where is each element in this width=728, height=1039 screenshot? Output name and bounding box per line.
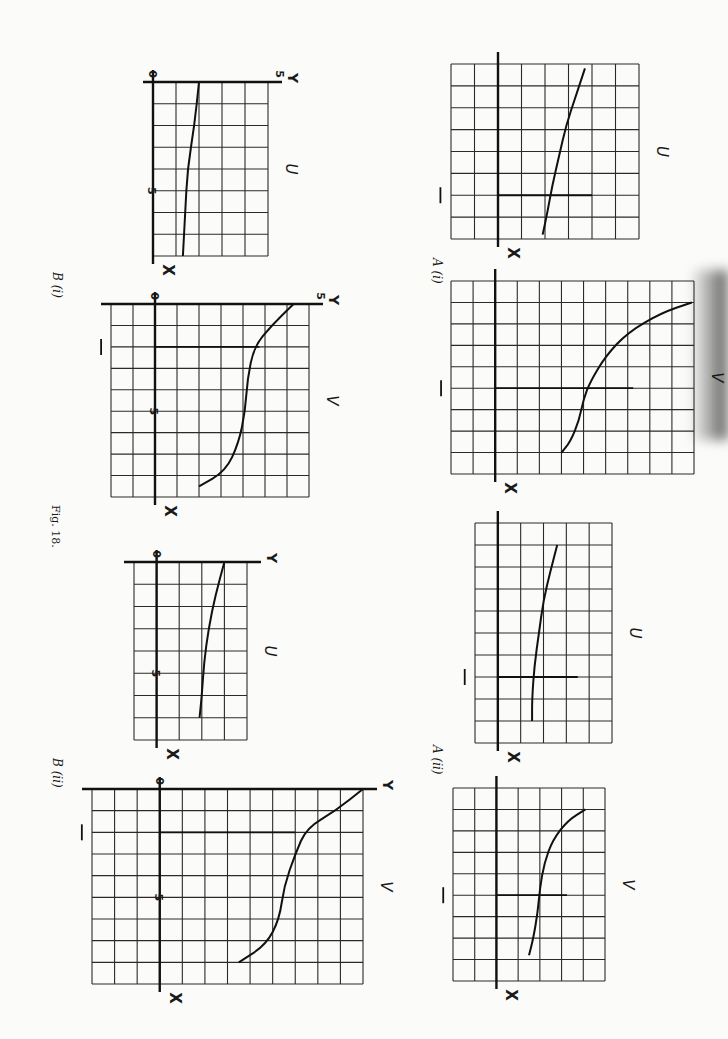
svg-text:X: X	[501, 482, 519, 494]
svg-text:X: X	[504, 247, 522, 259]
plot-a-ii-u: XU	[465, 511, 644, 763]
svg-text:U: U	[626, 628, 644, 639]
svg-text:V: V	[323, 395, 341, 407]
svg-text:U: U	[282, 164, 300, 175]
svg-text:V: V	[619, 879, 637, 891]
svg-text:0: 0	[148, 292, 161, 300]
figure-18-plots: XUXVXUXVXY055UXY055VXY05UXY05V	[0, 0, 728, 1039]
svg-text:X: X	[163, 748, 181, 760]
svg-text:5: 5	[152, 894, 165, 902]
svg-text:Y: Y	[264, 552, 280, 564]
plot-b-ii-v: XY05V	[82, 777, 396, 1004]
svg-text:5: 5	[145, 187, 158, 195]
svg-text:0: 0	[146, 70, 159, 78]
plot-a-i-v: XV	[441, 269, 726, 494]
svg-text:V: V	[708, 372, 726, 384]
plot-a-ii-v: XV	[443, 776, 637, 1001]
panel-label-b-ii: B (ii)	[50, 758, 64, 788]
curve-u	[200, 562, 225, 718]
svg-text:X: X	[504, 751, 522, 763]
svg-text:Y: Y	[380, 779, 396, 791]
svg-text:X: X	[166, 992, 184, 1004]
svg-text:5: 5	[147, 407, 160, 415]
svg-text:U: U	[653, 146, 671, 157]
plot-b-i-u: XY055U	[143, 70, 301, 276]
svg-text:5: 5	[314, 292, 327, 300]
plot-b-ii-u: XY05U	[124, 550, 280, 760]
svg-text:X: X	[502, 989, 520, 1001]
curve-v	[199, 304, 294, 486]
svg-text:X: X	[161, 505, 179, 517]
plot-a-i-u: XU	[440, 52, 671, 259]
svg-text:V: V	[377, 881, 395, 893]
svg-text:5: 5	[273, 70, 286, 78]
panel-label-a-ii: A (ii)	[430, 745, 444, 775]
svg-text:Y: Y	[326, 294, 342, 306]
svg-text:Y: Y	[285, 72, 301, 84]
svg-text:0: 0	[153, 777, 166, 785]
svg-text:U: U	[261, 646, 279, 657]
svg-text:X: X	[159, 264, 177, 276]
svg-text:5: 5	[149, 669, 162, 677]
figure-caption: Fig. 18.	[49, 505, 62, 548]
panel-label-b-i: B (i)	[50, 272, 64, 298]
plot-b-i-v: XY055V	[101, 292, 342, 517]
panel-label-a-i: A (i)	[430, 258, 444, 284]
svg-text:0: 0	[150, 550, 163, 558]
